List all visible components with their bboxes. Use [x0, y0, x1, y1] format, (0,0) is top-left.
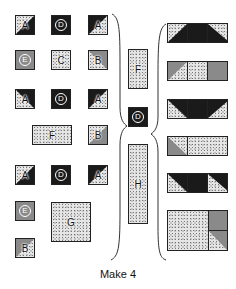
half-triangle-icon	[208, 174, 228, 192]
piece-label: E	[19, 54, 31, 66]
piece-d-3: D	[51, 165, 71, 185]
piece-c-1: C	[51, 50, 71, 70]
piece-b-2: B	[88, 125, 108, 145]
half-triangle-icon	[168, 62, 187, 80]
unit-cell-e	[208, 62, 228, 80]
unit-bf-1	[167, 136, 228, 156]
half-triangle-icon	[168, 137, 187, 155]
unit-ada-2	[167, 99, 228, 119]
piece-a-2: A	[88, 15, 108, 35]
right-bracket-icon	[150, 22, 168, 262]
piece-label: G	[67, 217, 75, 228]
piece-label: E	[19, 205, 31, 217]
piece-a-3: A	[15, 89, 35, 109]
piece-label: D	[132, 111, 144, 123]
piece-label: A	[95, 20, 102, 31]
piece-a-4: A	[88, 89, 108, 109]
unit-bce-1	[167, 61, 228, 81]
unit-cell-b	[168, 62, 188, 80]
piece-label: D	[55, 19, 67, 31]
unit-cell-d	[188, 24, 208, 42]
piece-label: B	[22, 243, 29, 254]
piece-label: A	[95, 94, 102, 105]
unit-cell-a	[168, 174, 188, 192]
unit-cell-a	[208, 174, 228, 192]
unit-geb-1	[167, 210, 228, 251]
piece-label: A	[22, 94, 29, 105]
piece-label: D	[55, 93, 67, 105]
piece-label: B	[95, 55, 102, 66]
half-triangle-icon	[208, 24, 228, 42]
unit-ada-1	[167, 23, 228, 43]
unit-cell-a	[208, 100, 228, 118]
half-triangle-icon	[209, 231, 228, 251]
piece-label: D	[55, 169, 67, 181]
unit-cell-a	[208, 24, 228, 42]
left-bracket-icon	[108, 12, 128, 262]
piece-e-1: E	[15, 50, 35, 70]
piece-label: A	[22, 170, 29, 181]
unit-ada-3	[167, 173, 228, 193]
piece-label: F	[135, 64, 141, 75]
unit-cell-a	[168, 24, 188, 42]
half-triangle-icon	[208, 100, 228, 118]
piece-label: H	[134, 179, 141, 190]
half-triangle-icon	[168, 24, 187, 42]
piece-label: A	[22, 20, 29, 31]
unit-cell-d	[188, 100, 208, 118]
piece-a-1: A	[15, 15, 35, 35]
piece-a-5: A	[15, 165, 35, 185]
piece-label: C	[57, 55, 64, 66]
piece-d-2: D	[51, 89, 71, 109]
unit-cell-f	[188, 137, 228, 155]
piece-b-1: B	[88, 50, 108, 70]
unit-cell-a	[168, 100, 188, 118]
piece-d-1: D	[51, 15, 71, 35]
piece-g-1: G	[51, 202, 91, 242]
half-triangle-icon	[168, 100, 187, 118]
piece-a-6: A	[88, 165, 108, 185]
piece-e-2: E	[15, 201, 35, 221]
unit-cell-e	[208, 211, 228, 231]
unit-cell-b	[208, 231, 228, 251]
piece-label: A	[95, 170, 102, 181]
caption: Make 4	[0, 268, 236, 280]
unit-cell-b	[168, 137, 188, 155]
piece-d-4: D	[128, 107, 148, 127]
piece-h-1: H	[128, 144, 148, 224]
piece-f-1: F	[32, 125, 72, 145]
piece-b-3: B	[15, 238, 35, 258]
unit-cell-d	[188, 174, 208, 192]
piece-label: B	[95, 130, 102, 141]
half-triangle-icon	[168, 174, 187, 192]
unit-cell-c	[188, 62, 208, 80]
piece-f-2: F	[128, 49, 148, 89]
piece-label: F	[49, 130, 55, 141]
